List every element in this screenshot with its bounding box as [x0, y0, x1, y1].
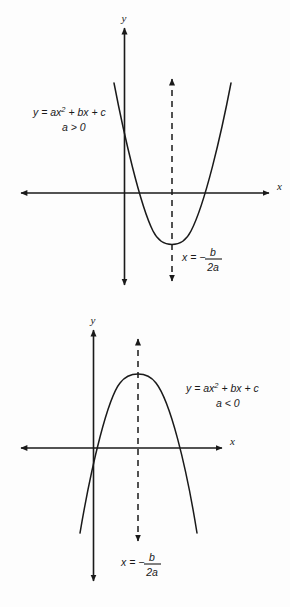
parabola-curve-upward	[114, 83, 231, 245]
y-axis-label-bottom: y	[90, 314, 96, 326]
equation-label-bottom: y = ax2 + bx + c a < 0	[185, 381, 260, 409]
downward-parabola-diagram: y x y = ax2 + bx + c a < 0 x = − b 2a	[21, 314, 260, 581]
equation-line-bottom: y = ax2 + bx + c	[185, 381, 260, 394]
equation-prefix-top: y = ax	[32, 106, 62, 118]
x-axis-label-bottom: x	[229, 435, 235, 447]
y-axis-label-top: y	[121, 12, 127, 24]
equation-suffix-top: + bx + c	[65, 106, 106, 118]
figure-canvas: y x y = ax2 + bx + c a > 0 x = − b 2a y …	[0, 0, 290, 607]
parabola-figure: y x y = ax2 + bx + c a > 0 x = − b 2a y …	[0, 0, 290, 607]
equation-label-top: y = ax2 + bx + c a > 0	[32, 105, 107, 133]
vertex-denominator-bottom: 2a	[145, 566, 158, 578]
vertex-prefix-top: x = −	[181, 251, 205, 263]
a-negative-label: a < 0	[216, 397, 240, 409]
vertex-label-top: x = − b 2a	[181, 246, 222, 273]
equation-line-top: y = ax2 + bx + c	[32, 105, 107, 118]
upward-parabola-diagram: y x y = ax2 + bx + c a > 0 x = − b 2a	[21, 12, 282, 285]
x-axis-label-top: x	[276, 180, 282, 192]
a-positive-label: a > 0	[62, 121, 86, 133]
vertex-numerator-bottom: b	[149, 551, 155, 563]
equation-prefix-bottom: y = ax	[185, 382, 215, 394]
vertex-numerator-top: b	[210, 246, 216, 258]
vertex-prefix-bottom: x = −	[120, 556, 144, 568]
equation-suffix-bottom: + bx + c	[218, 382, 259, 394]
vertex-denominator-top: 2a	[206, 261, 219, 273]
vertex-label-bottom: x = − b 2a	[120, 551, 161, 578]
